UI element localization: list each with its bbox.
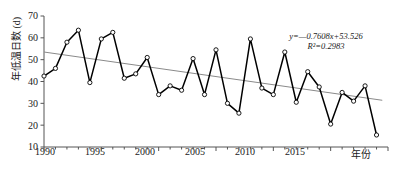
data-point: [225, 101, 229, 105]
data-point: [317, 85, 321, 89]
data-point: [260, 86, 264, 90]
data-point: [122, 76, 126, 80]
data-point: [329, 122, 333, 126]
data-point: [180, 88, 184, 92]
figure-container: 年低温日数 (d) 年份 70 60 50 40 30 20 10 1990 1…: [0, 0, 393, 182]
data-point: [168, 84, 172, 88]
data-point: [88, 80, 92, 84]
data-point: [145, 55, 149, 59]
data-point: [76, 28, 80, 32]
data-point: [248, 37, 252, 41]
trend-equation: y=—0.7608x+53.526: [262, 31, 390, 41]
plot-area: [0, 0, 393, 182]
data-point: [340, 90, 344, 94]
data-point: [363, 84, 367, 88]
trend-annotation: y=—0.7608x+53.526 R²=0.2983: [262, 31, 390, 51]
data-point: [202, 93, 206, 97]
trend-r-squared: R²=0.2983: [262, 41, 390, 51]
data-point: [237, 111, 241, 115]
data-point: [191, 56, 195, 60]
data-point: [294, 100, 298, 104]
data-point: [65, 40, 69, 44]
data-point: [134, 72, 138, 76]
data-point: [374, 133, 378, 137]
data-point: [271, 93, 275, 97]
data-point: [53, 66, 57, 70]
data-point: [99, 37, 103, 41]
data-point: [111, 30, 115, 34]
data-point: [306, 70, 310, 74]
data-point: [214, 48, 218, 52]
data-point: [352, 99, 356, 103]
data-point: [157, 93, 161, 97]
data-point: [42, 74, 46, 78]
